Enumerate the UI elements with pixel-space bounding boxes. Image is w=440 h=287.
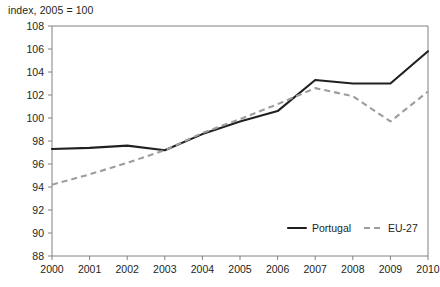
x-tick-label: 2002 [116,263,140,275]
y-axis-ticks: 889092949698100102104106108 [26,20,52,262]
data-series-layer [52,51,428,184]
y-tick-label: 88 [32,250,44,262]
chart-container: index, 2005 = 100 8890929496981001021041… [0,0,440,287]
legend-label-eu-27: EU-27 [388,222,418,234]
x-axis-ticks: 2000200120022003200420052006200720082009… [40,256,440,275]
chart-legend: PortugalEU-27 [288,222,418,234]
y-tick-label: 104 [26,66,44,78]
x-tick-label: 2001 [78,263,102,275]
line-chart: 889092949698100102104106108 200020012002… [0,0,440,287]
x-tick-label: 2007 [304,263,328,275]
legend-label-portugal: Portugal [312,222,351,234]
series-line-eu-27 [52,88,428,185]
y-tick-label: 102 [26,89,44,101]
x-tick-label: 2003 [153,263,177,275]
y-tick-label: 94 [32,181,44,193]
x-tick-label: 2004 [191,263,215,275]
y-tick-label: 92 [32,204,44,216]
plot-axes [52,26,428,256]
y-tick-label: 96 [32,158,44,170]
x-tick-label: 2009 [379,263,403,275]
y-tick-label: 98 [32,135,44,147]
y-tick-label: 90 [32,227,44,239]
y-tick-label: 108 [26,20,44,32]
y-tick-label: 100 [26,112,44,124]
series-line-portugal [52,51,428,150]
x-tick-label: 2010 [416,263,440,275]
x-tick-label: 2006 [266,263,290,275]
x-tick-label: 2000 [40,263,64,275]
y-tick-label: 106 [26,43,44,55]
x-tick-label: 2008 [341,263,365,275]
x-tick-label: 2005 [228,263,252,275]
